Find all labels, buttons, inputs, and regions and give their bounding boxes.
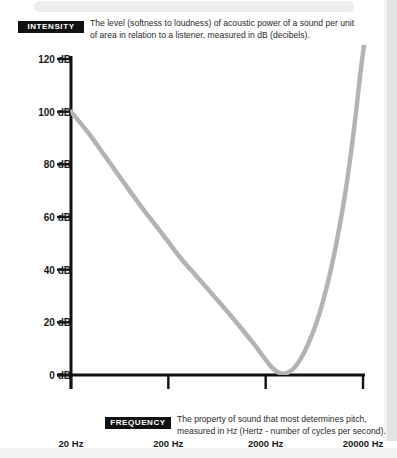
y-axis-tick-label: 20 dB (44, 317, 71, 328)
chart-series-line (71, 45, 365, 374)
figure-page: INTENSITY The level (softness to loudnes… (0, 0, 397, 458)
x-axis-tick-label: 200 Hz (153, 438, 183, 449)
x-axis-tick-label: 20 Hz (59, 438, 84, 449)
y-axis-tick-label: 100 dB (38, 106, 71, 117)
y-axis-tick-label: 40 dB (44, 264, 71, 275)
frequency-badge: FREQUENCY (105, 417, 171, 429)
x-axis-tick-label: 2000 Hz (248, 438, 283, 449)
y-axis-tick-label: 0 dB (49, 370, 71, 381)
frequency-description: The property of sound that most determin… (177, 414, 387, 437)
page-bottom-edge-artifact (0, 448, 397, 458)
page-top-edge-artifact (34, 1, 354, 12)
y-axis-tick-label: 60 dB (44, 212, 71, 223)
intensity-badge: INTENSITY (18, 21, 84, 33)
y-axis-tick-label: 80 dB (44, 159, 71, 170)
x-axis-tick-label: 20000 Hz (343, 438, 384, 449)
intensity-description: The level (softness to loudness) of acou… (90, 18, 362, 41)
hearing-threshold-chart: 0 dB20 dB40 dB60 dB80 dB100 dB120 dB20 H… (0, 45, 397, 390)
y-axis-tick-label: 120 dB (38, 54, 71, 65)
